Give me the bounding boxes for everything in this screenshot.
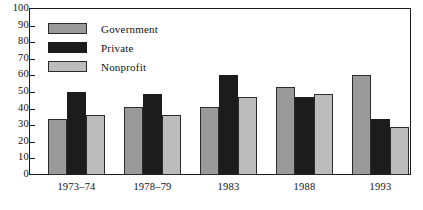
- legend-item-private: Private: [48, 38, 158, 57]
- legend-swatch-private: [48, 42, 87, 53]
- y-tick-label-60: 60: [3, 69, 29, 79]
- y-tick-mark-70: [30, 59, 35, 60]
- bar-nonprofit: [162, 115, 181, 175]
- y-tick-label-30: 30: [3, 119, 29, 129]
- bar-nonprofit: [390, 127, 409, 175]
- bar-government: [48, 119, 67, 175]
- y-tick-label-10: 10: [3, 152, 29, 162]
- y-tick-label-0: 0: [3, 169, 29, 179]
- bar-group: [200, 9, 257, 175]
- y-tick-mark-30: [30, 125, 35, 126]
- y-tick-mark-20: [30, 142, 35, 143]
- legend-item-government: Government: [48, 19, 158, 38]
- y-tick-mark-10: [30, 158, 35, 159]
- legend-label: Nonprofit: [101, 61, 146, 73]
- bar-government: [200, 107, 219, 175]
- bar-private: [67, 92, 86, 175]
- x-tick-label: 1983: [189, 181, 269, 192]
- bar-private: [219, 75, 238, 175]
- y-tick-label-100: 100: [3, 3, 29, 13]
- y-tick-mark-80: [30, 42, 35, 43]
- y-tick-label-40: 40: [3, 103, 29, 113]
- y-tick-label-80: 80: [3, 36, 29, 46]
- legend-swatch-nonprofit: [48, 61, 87, 72]
- bar-private: [295, 97, 314, 175]
- y-tick-label-70: 70: [3, 53, 29, 63]
- bar-nonprofit: [238, 97, 257, 175]
- y-axis: 0102030405060708090100: [0, 0, 29, 210]
- x-tick-label: 1993: [341, 181, 421, 192]
- legend-item-nonprofit: Nonprofit: [48, 57, 158, 76]
- bar-chart: 0102030405060708090100 GovernmentPrivate…: [0, 0, 423, 210]
- bar-group: [276, 9, 333, 175]
- y-tick-mark-50: [30, 92, 35, 93]
- bar-nonprofit: [86, 115, 105, 175]
- y-tick-label-20: 20: [3, 136, 29, 146]
- bar-private: [371, 119, 390, 175]
- y-tick-mark-60: [30, 75, 35, 76]
- x-tick-label: 1973–74: [37, 181, 117, 192]
- y-tick-mark-90: [30, 26, 35, 27]
- bar-group: [352, 9, 409, 175]
- x-tick-label: 1978–79: [113, 181, 193, 192]
- legend-label: Private: [101, 42, 134, 54]
- legend-label: Government: [101, 23, 158, 35]
- y-tick-mark-40: [30, 109, 35, 110]
- y-tick-label-90: 90: [3, 20, 29, 30]
- bar-private: [143, 94, 162, 175]
- bar-government: [276, 87, 295, 175]
- bar-government: [352, 75, 371, 175]
- bar-government: [124, 107, 143, 175]
- legend-swatch-government: [48, 23, 87, 34]
- chart-legend: GovernmentPrivateNonprofit: [48, 19, 158, 76]
- x-tick-label: 1988: [265, 181, 345, 192]
- y-tick-label-50: 50: [3, 86, 29, 96]
- bar-nonprofit: [314, 94, 333, 175]
